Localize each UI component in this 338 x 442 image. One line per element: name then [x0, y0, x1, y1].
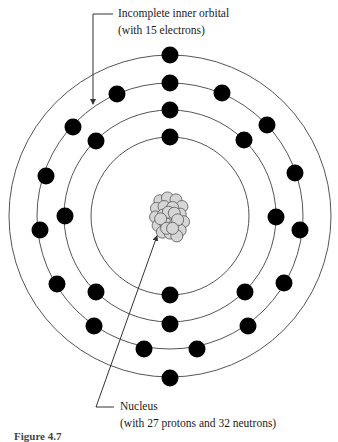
nucleon: [167, 222, 179, 234]
electron: [162, 47, 179, 64]
electron: [49, 276, 66, 293]
nucleus: [150, 192, 190, 242]
electron: [109, 86, 126, 103]
electron: [38, 168, 55, 185]
nucleus-label-title: Nucleus: [120, 398, 276, 415]
electron: [65, 119, 82, 136]
electron: [88, 284, 105, 301]
figure-caption: Figure 4.7: [14, 430, 61, 442]
electron: [292, 222, 309, 239]
electron: [88, 133, 105, 150]
electron: [214, 85, 231, 102]
electron: [259, 117, 276, 134]
electron: [57, 208, 74, 225]
electron: [162, 370, 179, 387]
electron: [162, 129, 179, 146]
nucleus-label-detail: (with 27 protons and 32 neutrons): [120, 415, 276, 432]
electron: [162, 75, 179, 92]
electron: [237, 284, 254, 301]
electron: [162, 316, 179, 333]
orbital-label-title: Incomplete inner orbital: [118, 5, 229, 22]
electron: [287, 165, 304, 182]
electron: [32, 222, 49, 239]
electron: [86, 318, 103, 335]
electron: [268, 209, 285, 226]
electron: [240, 318, 257, 335]
electron: [162, 102, 179, 119]
orbital-label-detail: (with 15 electrons): [118, 22, 229, 39]
orbital-label: Incomplete inner orbital (with 15 electr…: [118, 5, 229, 39]
electron: [276, 275, 293, 292]
nucleus-label: Nucleus (with 27 protons and 32 neutrons…: [120, 398, 276, 432]
electron: [162, 287, 179, 304]
electron: [189, 341, 206, 358]
electron: [136, 341, 153, 358]
electron: [236, 132, 253, 149]
